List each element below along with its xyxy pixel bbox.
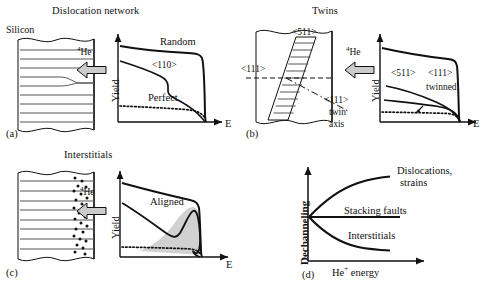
panel-a-beam-arrow xyxy=(76,60,108,80)
panel-b-incident-direction-label: <111> xyxy=(241,64,265,74)
panel-b-tag: (b) xyxy=(246,128,258,139)
panel-d-curve-label-interstitials: Interstitials xyxy=(348,230,395,241)
panel-c-tag: (c) xyxy=(6,267,18,278)
panel-b-curve-label-twinned: twinned xyxy=(426,82,457,92)
panel-c-title: Interstitials xyxy=(64,149,113,160)
panel-d-curve-label-dislocations-line1: Dislocations, xyxy=(397,165,452,176)
panel-c-chart xyxy=(110,163,240,273)
panel-b-twin-axis-label-2: twin xyxy=(329,107,346,117)
panel-c-curve-label-aligned: Aligned xyxy=(150,196,184,207)
panel-d-yaxis-label: Dechanneling xyxy=(298,201,310,265)
panel-d-curve-label-dislocations-line2: strains xyxy=(400,177,427,188)
panel-b-curve-label-511: <511> xyxy=(391,68,416,78)
panel-b-curve-label-111: <111> xyxy=(428,68,452,78)
panel-a-curve-label-aligned: <110> xyxy=(152,60,177,70)
panel-d-chart xyxy=(248,161,473,276)
panel-c-beam-label: 4He xyxy=(80,185,95,197)
panel-c-beam-arrow xyxy=(76,201,108,221)
panel-c-yaxis-label: Yield xyxy=(110,216,121,239)
panel-b-band-direction-label: <511> xyxy=(292,27,317,37)
panel-b-twin-axis-label-3: axis xyxy=(329,119,344,129)
panel-b-beam-label: 4He xyxy=(346,45,361,57)
panel-b: Twins xyxy=(240,0,481,145)
panel-a-tag: (a) xyxy=(6,128,18,139)
panel-a-beam-label: 4He xyxy=(77,45,92,57)
panel-b-chart xyxy=(368,26,481,136)
panel-d-tag: (d) xyxy=(302,269,314,280)
panel-a: Dislocation network Silicon xyxy=(0,0,240,145)
figure-canvas: Dislocation network Silicon xyxy=(0,0,481,286)
panel-d-curve-label-stacking-faults: Stacking faults xyxy=(344,205,407,216)
panel-c: Interstitials xyxy=(0,143,240,286)
panel-b-xaxis-label: E xyxy=(473,118,479,129)
panel-a-curve-label-perfect: Perfect xyxy=(148,92,178,103)
panel-c-xaxis-label: E xyxy=(226,259,232,270)
panel-b-yaxis-label: Yield xyxy=(370,79,381,102)
panel-a-title: Dislocation network xyxy=(52,5,139,16)
panel-a-xaxis-label: E xyxy=(225,118,231,129)
panel-b-twin-axis-label-1: <111> xyxy=(324,95,348,105)
panel-d: Dislocations, strains Stacking faults In… xyxy=(240,143,481,286)
panel-d-xaxis-species: He xyxy=(332,267,344,278)
panel-d-xaxis-label: He+ energy xyxy=(332,265,379,278)
panel-a-yaxis-label: Yield xyxy=(110,79,121,102)
panel-d-xaxis-tail: energy xyxy=(348,267,379,278)
panel-a-curve-label-random: Random xyxy=(160,36,196,47)
panel-b-title: Twins xyxy=(312,5,338,16)
